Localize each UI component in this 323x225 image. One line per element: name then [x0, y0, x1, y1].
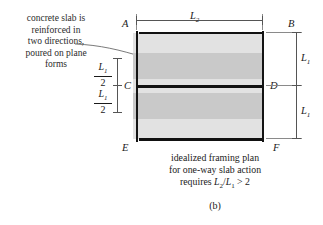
fraction-denominator: 2: [93, 77, 113, 88]
dim-label-L1-lower: L1: [301, 106, 310, 119]
right-dim-line-upper: [296, 32, 297, 85]
top-dim-tick-right: [262, 16, 263, 25]
left-dim-tick-bottom: [113, 112, 122, 113]
slab-band-light-top: [133, 33, 264, 53]
slab-band-dark-lower: [133, 93, 264, 119]
dim-label-L2: L2: [190, 11, 199, 24]
figure-caption: idealized framing plan for one-way slab …: [120, 152, 310, 192]
left-dim-tick-top: [113, 58, 122, 59]
node-label-C: C: [124, 81, 131, 92]
left-dim-line-upper: [117, 58, 118, 85]
right-dim-line-lower: [296, 85, 297, 138]
column-left-AE: [136, 31, 138, 142]
caption-line-1: idealized framing plan: [120, 152, 310, 164]
left-dim-tick-middle: [113, 85, 122, 86]
dim-label-L1-over-2-lower: L1 2: [93, 89, 113, 115]
column-right-BF: [262, 31, 264, 142]
figure-sublabel: (b): [120, 200, 310, 211]
caption-line-2: for one-way slab action: [120, 164, 310, 176]
top-dim-tick-left: [136, 16, 137, 25]
right-dim-tick-middle: [292, 85, 301, 86]
node-label-B: B: [288, 19, 294, 30]
top-dim-line: [136, 20, 263, 21]
dim-label-L1-over-2-upper: L1 2: [93, 62, 113, 88]
slab-band-light-bottom: [133, 119, 264, 139]
fraction-numerator: L1: [93, 89, 113, 103]
right-dim-tick-top: [292, 32, 301, 33]
right-dim-tick-bottom: [292, 138, 301, 139]
caption-line-3: requires L2/L1 > 2: [120, 176, 310, 193]
left-dim-line-lower: [117, 85, 118, 112]
fraction-numerator: L1: [93, 62, 113, 76]
dim-label-L1-upper: L1: [301, 53, 310, 66]
beam-middle-CD: [136, 85, 264, 88]
figure-container: concrete slab is reinforced in two direc…: [0, 0, 323, 225]
node-label-A: A: [122, 19, 128, 30]
slab-band-dark-upper: [133, 53, 264, 79]
fraction-denominator: 2: [93, 104, 113, 115]
beam-bottom-EF: [139, 138, 264, 141]
beam-top-AB: [139, 32, 264, 35]
node-label-D: D: [270, 81, 278, 92]
